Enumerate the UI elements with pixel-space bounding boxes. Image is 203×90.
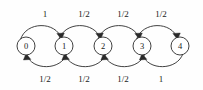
edge-label-1-to-0: 1/2 [39, 74, 51, 84]
edge-label-3-to-4: 1/2 [155, 9, 167, 19]
edge-1-to-0[interactable] [23, 54, 67, 67]
edge-2-to-1-path [65, 54, 106, 67]
node-1-label: 1 [62, 41, 66, 51]
bottom-edges-group [23, 54, 183, 67]
edge-label-1-to-2: 1/2 [78, 9, 90, 19]
nodes-group: 0 1 2 3 4 [17, 37, 189, 55]
edge-1-to-0-path [27, 54, 68, 67]
edge-label-4-to-3: 1 [159, 74, 164, 84]
node-2-label: 2 [101, 41, 105, 51]
edge-label-3-to-2: 1/2 [117, 74, 129, 84]
node-0[interactable]: 0 [17, 37, 35, 55]
node-3[interactable]: 3 [133, 37, 151, 55]
edge-label-2-to-3: 1/2 [117, 9, 129, 19]
node-1[interactable]: 1 [55, 37, 73, 55]
edge-3-to-2-path [104, 54, 145, 67]
top-edge-labels-group: 1 1/2 1/2 1/2 [43, 9, 167, 19]
bottom-edge-labels-group: 1/2 1/2 1/2 1 [39, 74, 163, 84]
edge-label-2-to-1: 1/2 [78, 74, 90, 84]
node-2[interactable]: 2 [94, 37, 112, 55]
edge-3-to-2[interactable] [101, 54, 145, 67]
node-0-label: 0 [24, 41, 28, 51]
edge-4-to-3[interactable] [139, 54, 183, 67]
edge-4-to-3-path [143, 54, 184, 67]
node-4[interactable]: 4 [171, 37, 189, 55]
node-3-label: 3 [140, 41, 144, 51]
chain-canvas: 0 1 2 3 4 1 1/2 1/2 1/2 [0, 0, 203, 90]
edge-2-to-1[interactable] [62, 54, 106, 67]
markov-chain-diagram: 0 1 2 3 4 1 1/2 1/2 1/2 [0, 0, 203, 90]
edge-label-0-to-1: 1 [43, 9, 48, 19]
